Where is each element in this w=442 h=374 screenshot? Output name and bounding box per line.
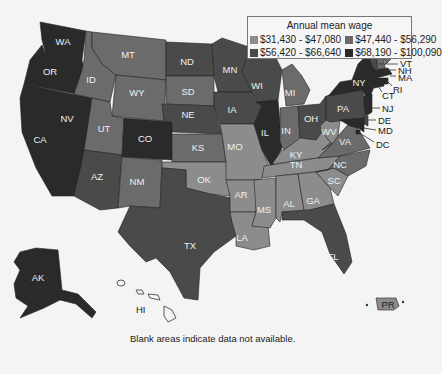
state-label-nm: NM — [130, 176, 145, 187]
state-label-nj: NJ — [382, 103, 394, 114]
state-label-mi: MI — [285, 87, 296, 98]
legend-title: Annual mean wage — [248, 20, 411, 33]
legend-swatch — [250, 36, 258, 44]
state-label-wa: WA — [56, 36, 72, 47]
state-label-pa: PA — [337, 103, 350, 114]
state-label-fl: FL — [327, 251, 338, 262]
state-ak[interactable] — [14, 248, 96, 318]
state-label-hi: HI — [136, 304, 146, 315]
state-nj[interactable] — [364, 94, 372, 116]
state-label-nd: ND — [180, 56, 194, 67]
legend-entry: $56,420 - $66,640 — [250, 47, 341, 58]
state-label-ct: CT — [382, 90, 395, 101]
state-label-ne: NE — [181, 109, 194, 120]
state-label-wv: WV — [321, 126, 337, 137]
state-label-tn: TN — [290, 159, 303, 170]
state-label-ga: GA — [306, 195, 320, 206]
state-label-or: OR — [43, 66, 57, 77]
state-label-ny: NY — [352, 77, 366, 88]
state-label-wi: WI — [251, 80, 263, 91]
legend-row-1: $31,430 - $47,080 $47,440 - $56,290 — [248, 33, 411, 46]
state-label-tx: TX — [184, 240, 197, 251]
state-ct[interactable] — [374, 78, 384, 88]
state-label-co: CO — [138, 133, 152, 144]
legend: Annual mean wage $31,430 - $47,080 $47,4… — [247, 16, 412, 59]
state-label-az: AZ — [91, 171, 103, 182]
state-label-ks: KS — [192, 142, 205, 153]
state-label-va: VA — [339, 136, 352, 147]
legend-swatch — [345, 36, 353, 44]
state-label-ms: MS — [257, 204, 271, 215]
state-label-sd: SD — [181, 86, 194, 97]
state-label-md: MD — [378, 125, 393, 136]
state-fl[interactable] — [282, 204, 352, 274]
state-hi[interactable] — [117, 280, 176, 322]
state-label-sc: SC — [327, 175, 340, 186]
state-label-ca: CA — [33, 134, 47, 145]
state-ri[interactable] — [384, 78, 388, 84]
state-label-la: LA — [236, 232, 248, 243]
legend-entry: $47,440 - $56,290 — [345, 34, 436, 45]
state-label-nv: NV — [60, 113, 74, 124]
legend-swatch — [345, 49, 353, 57]
state-label-ma: MA — [398, 72, 413, 83]
state-label-al: AL — [283, 198, 295, 209]
state-wy[interactable] — [112, 75, 166, 121]
state-label-ok: OK — [197, 174, 211, 185]
state-label-ak: AK — [32, 272, 45, 283]
state-mi[interactable] — [282, 64, 310, 106]
state-ma[interactable] — [374, 68, 392, 78]
legend-row-2: $56,420 - $66,640 $68,190 - $100,090 — [248, 46, 411, 59]
state-label-id: ID — [86, 74, 96, 85]
state-label-mn: MN — [223, 64, 238, 75]
state-label-dc: DC — [376, 139, 390, 150]
legend-entry: $68,190 - $100,090 — [345, 47, 442, 58]
state-label-pr: PR — [381, 299, 394, 310]
state-label-mt: MT — [121, 49, 135, 60]
state-label-il: IL — [261, 127, 269, 138]
state-label-ut: UT — [98, 123, 111, 134]
legend-swatch — [250, 49, 258, 57]
state-de[interactable] — [364, 116, 368, 126]
state-label-wy: WY — [129, 87, 145, 98]
state-ia[interactable] — [214, 92, 262, 124]
state-label-in: IN — [281, 125, 291, 136]
footnote: Blank areas indicate data not available. — [130, 333, 295, 344]
state-label-nc: NC — [333, 159, 347, 170]
legend-entry: $31,430 - $47,080 — [250, 34, 341, 45]
state-label-mo: MO — [227, 141, 242, 152]
state-label-ia: IA — [228, 104, 238, 115]
state-label-ar: AR — [234, 189, 247, 200]
state-label-oh: OH — [304, 113, 318, 124]
